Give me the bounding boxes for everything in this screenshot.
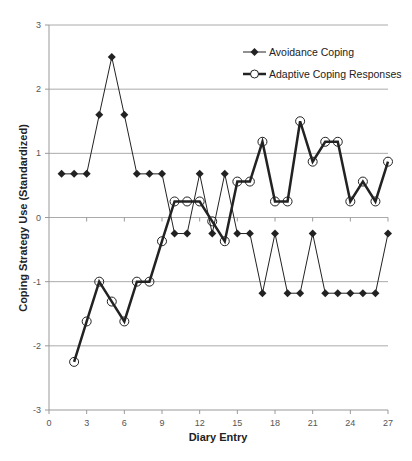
y-axis-ticks: 3210-1-2-3 bbox=[33, 20, 49, 415]
legend: Avoidance Coping Adaptive Coping Respons… bbox=[243, 46, 402, 80]
x-tick-label: 24 bbox=[345, 418, 355, 428]
legend-label-avoidance: Avoidance Coping bbox=[269, 46, 354, 58]
legend-item-adaptive: Adaptive Coping Responses bbox=[243, 68, 402, 80]
diamond-marker bbox=[183, 230, 191, 238]
diamond-marker bbox=[133, 170, 141, 178]
x-tick-label: 27 bbox=[383, 418, 393, 428]
diamond-marker bbox=[95, 111, 103, 119]
series-layer bbox=[58, 53, 393, 366]
diamond-marker bbox=[221, 170, 229, 178]
legend-label-adaptive: Adaptive Coping Responses bbox=[269, 68, 402, 80]
y-tick-label: 2 bbox=[36, 84, 41, 94]
diamond-marker bbox=[258, 289, 266, 297]
x-tick-label: 15 bbox=[232, 418, 242, 428]
x-tick-label: 9 bbox=[159, 418, 164, 428]
diamond-marker bbox=[145, 170, 153, 178]
y-axis-title: Coping Strategy Use (Standardized) bbox=[17, 124, 29, 312]
diamond-marker bbox=[70, 170, 78, 178]
x-axis-title: Diary Entry bbox=[189, 431, 249, 443]
diamond-marker bbox=[58, 170, 66, 178]
diamond-marker bbox=[371, 289, 379, 297]
series-0 bbox=[58, 53, 392, 297]
diamond-marker bbox=[296, 289, 304, 297]
diamond-marker bbox=[208, 230, 216, 238]
diamond-marker bbox=[233, 230, 241, 238]
diamond-marker bbox=[359, 289, 367, 297]
series-line bbox=[74, 121, 388, 362]
y-tick-label: 3 bbox=[36, 20, 41, 30]
diamond-marker bbox=[108, 53, 116, 61]
diamond-marker bbox=[321, 289, 329, 297]
diamond-marker bbox=[158, 170, 166, 178]
diamond-marker bbox=[271, 230, 279, 238]
x-tick-label: 18 bbox=[270, 418, 280, 428]
y-tick-label: -2 bbox=[33, 341, 41, 351]
x-tick-label: 0 bbox=[46, 418, 51, 428]
line-chart: 3210-1-2-3 0369121518212427 Diary Entry … bbox=[0, 0, 412, 461]
x-axis-ticks: 0369121518212427 bbox=[46, 218, 393, 429]
x-tick-label: 21 bbox=[308, 418, 318, 428]
diamond-marker bbox=[196, 170, 204, 178]
x-tick-label: 6 bbox=[122, 418, 127, 428]
diamond-marker bbox=[346, 289, 354, 297]
diamond-marker-icon bbox=[251, 48, 259, 56]
diamond-marker bbox=[83, 170, 91, 178]
circle-marker-icon bbox=[251, 70, 259, 78]
diamond-marker bbox=[309, 230, 317, 238]
y-tick-label: 0 bbox=[36, 213, 41, 223]
diamond-marker bbox=[384, 230, 392, 238]
diamond-marker bbox=[334, 289, 342, 297]
series-1 bbox=[70, 117, 393, 367]
diamond-marker bbox=[284, 289, 292, 297]
legend-item-avoidance: Avoidance Coping bbox=[243, 46, 354, 58]
x-tick-label: 12 bbox=[195, 418, 205, 428]
y-tick-label: -1 bbox=[33, 277, 41, 287]
diamond-marker bbox=[120, 111, 128, 119]
x-tick-label: 3 bbox=[84, 418, 89, 428]
y-tick-label: -3 bbox=[33, 405, 41, 415]
diamond-marker bbox=[246, 230, 254, 238]
diamond-marker bbox=[171, 230, 179, 238]
y-tick-label: 1 bbox=[36, 148, 41, 158]
